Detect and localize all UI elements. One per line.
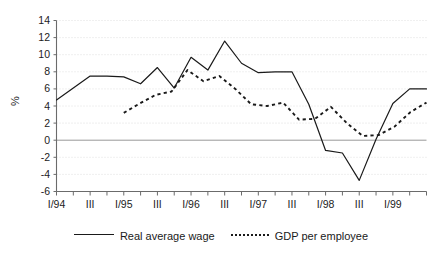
chart-figure: % 14121086420-2-4-6 I/94IIII/95IIII/96II… — [0, 0, 442, 258]
chart-legend: Real average wage GDP per employee — [0, 228, 442, 242]
legend-label-real-average-wage: Real average wage — [120, 230, 215, 242]
series-line-gdp-per-employee — [124, 70, 427, 136]
legend-label-gdp-per-employee: GDP per employee — [275, 230, 368, 242]
legend-dashed-line-icon — [231, 234, 269, 236]
chart-plot-area — [0, 0, 442, 258]
legend-solid-line-icon — [74, 234, 114, 235]
legend-entry-real-average-wage: Real average wage — [74, 229, 215, 242]
series-line-real-average-wage — [57, 41, 427, 180]
legend-entry-gdp-per-employee: GDP per employee — [223, 229, 368, 242]
